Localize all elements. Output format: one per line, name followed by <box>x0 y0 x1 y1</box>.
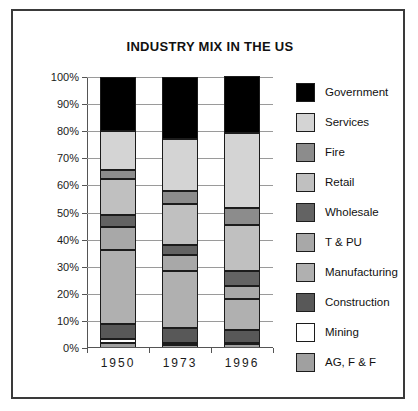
bar-segment-manufacturing <box>100 250 136 323</box>
bar-segment-mining <box>100 339 136 343</box>
legend-item-fire[interactable]: Fire <box>296 137 404 167</box>
legend-swatch-icon <box>296 233 315 252</box>
bar-segment-construction <box>100 324 136 339</box>
bar-segment-manufacturing <box>224 299 260 330</box>
legend-label: T & PU <box>325 236 362 248</box>
y-tick-mark <box>82 294 87 295</box>
chart-page: INDUSTRY MIX IN THE US 0%10%20%30%40%50%… <box>0 0 418 411</box>
chart-frame: INDUSTRY MIX IN THE US 0%10%20%30%40%50%… <box>11 9 405 399</box>
bar-segment-t-pu <box>224 286 260 300</box>
bar-segment-construction <box>224 330 260 342</box>
x-axis-label-1950: 1950 <box>101 356 136 370</box>
x-tick-mark <box>87 348 88 353</box>
bar-segment-wholesale <box>100 215 136 227</box>
chart-legend: GovernmentServicesFireRetailWholesaleT &… <box>296 77 404 377</box>
legend-item-t-pu[interactable]: T & PU <box>296 227 404 257</box>
y-axis-label: 70% <box>57 152 79 164</box>
y-tick-mark <box>82 104 87 105</box>
x-tick-mark <box>149 348 150 353</box>
bar-1996 <box>224 77 260 348</box>
legend-item-ag-f-f[interactable]: AG, F & F <box>296 347 404 377</box>
legend-item-retail[interactable]: Retail <box>296 167 404 197</box>
legend-label: Wholesale <box>325 206 379 218</box>
legend-swatch-icon <box>296 293 315 312</box>
x-tick-mark <box>211 348 212 353</box>
legend-label: Fire <box>325 146 345 158</box>
bar-segment-fire <box>162 191 198 205</box>
legend-item-construction[interactable]: Construction <box>296 287 404 317</box>
legend-label: Manufacturing <box>325 266 398 278</box>
bar-segment-services <box>224 133 260 209</box>
bar-1973 <box>162 77 198 348</box>
legend-swatch-icon <box>296 173 315 192</box>
y-tick-mark <box>82 185 87 186</box>
legend-item-government[interactable]: Government <box>296 77 404 107</box>
bar-segment-government <box>100 77 136 131</box>
legend-label: Government <box>325 86 388 98</box>
plot-area: 0%10%20%30%40%50%60%70%80%90%100% 195019… <box>87 77 273 348</box>
legend-swatch-icon <box>296 263 315 282</box>
y-tick-mark <box>82 77 87 78</box>
bar-segment-retail <box>224 225 260 271</box>
legend-label: Retail <box>325 176 354 188</box>
bar-segment-government <box>162 77 198 139</box>
bar-segment-services <box>162 139 198 190</box>
y-axis-label: 80% <box>57 125 79 137</box>
bar-1950 <box>100 77 136 348</box>
legend-label: Construction <box>325 296 390 308</box>
legend-item-services[interactable]: Services <box>296 107 404 137</box>
y-axis-label: 50% <box>57 207 79 219</box>
y-axis-label: 20% <box>57 288 79 300</box>
y-axis-label: 30% <box>57 261 79 273</box>
legend-label: Services <box>325 116 369 128</box>
legend-swatch-icon <box>296 83 315 102</box>
bar-segment-fire <box>224 208 260 224</box>
legend-item-mining[interactable]: Mining <box>296 317 404 347</box>
y-axis-label: 10% <box>57 315 79 327</box>
y-tick-mark <box>82 240 87 241</box>
bar-segment-fire <box>100 170 136 178</box>
x-axis-line <box>87 347 273 348</box>
y-tick-mark <box>82 131 87 132</box>
legend-swatch-icon <box>296 203 315 222</box>
legend-label: Mining <box>325 326 359 338</box>
y-tick-mark <box>82 321 87 322</box>
chart-title: INDUSTRY MIX IN THE US <box>13 39 407 54</box>
bar-segment-t-pu <box>162 255 198 271</box>
bar-segment-mining <box>224 343 260 345</box>
x-axis-label-1996: 1996 <box>225 356 260 370</box>
legend-label: AG, F & F <box>325 356 376 368</box>
bar-segment-t-pu <box>100 227 136 250</box>
legend-item-wholesale[interactable]: Wholesale <box>296 197 404 227</box>
y-tick-mark <box>82 158 87 159</box>
legend-swatch-icon <box>296 113 315 132</box>
y-axis-label: 90% <box>57 98 79 110</box>
bar-segment-wholesale <box>162 245 198 254</box>
x-tick-mark <box>273 348 274 353</box>
bar-segment-retail <box>100 179 136 216</box>
legend-swatch-icon <box>296 143 315 162</box>
bar-segment-government <box>224 76 260 133</box>
y-axis-label: 40% <box>57 234 79 246</box>
y-axis-label: 100% <box>51 71 79 83</box>
bar-segment-services <box>100 131 136 170</box>
bar-segment-mining <box>162 343 198 346</box>
bar-segment-construction <box>162 328 198 343</box>
legend-item-manufacturing[interactable]: Manufacturing <box>296 257 404 287</box>
bar-segment-retail <box>162 204 198 245</box>
bar-segment-manufacturing <box>162 271 198 328</box>
y-tick-mark <box>82 267 87 268</box>
x-axis-label-1973: 1973 <box>163 356 198 370</box>
y-axis-label: 0% <box>63 342 79 354</box>
legend-swatch-icon <box>296 353 315 372</box>
y-tick-mark <box>82 213 87 214</box>
y-axis-label: 60% <box>57 179 79 191</box>
legend-swatch-icon <box>296 323 315 342</box>
bar-segment-wholesale <box>224 271 260 286</box>
